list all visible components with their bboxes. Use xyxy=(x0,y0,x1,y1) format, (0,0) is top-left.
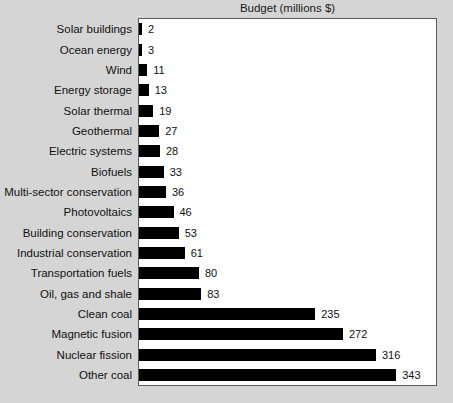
bar-row: 53 xyxy=(139,227,436,239)
bar-chart-figure: Budget (millions $) 23111319272833364653… xyxy=(0,0,453,403)
bar-row: 343 xyxy=(139,369,436,381)
bar xyxy=(139,227,179,239)
bar-value-label: 46 xyxy=(180,206,192,218)
bar-row: 33 xyxy=(139,166,436,178)
bar-value-label: 19 xyxy=(159,105,171,117)
bar-row: 2 xyxy=(139,23,436,35)
bar-value-label: 316 xyxy=(382,349,400,361)
chart-title: Budget (millions $) xyxy=(138,1,437,15)
category-label: Ocean energy xyxy=(60,44,132,56)
category-label: Industrial conservation xyxy=(17,247,132,259)
bar-row: 316 xyxy=(139,349,436,361)
bar-value-label: 11 xyxy=(153,64,164,76)
bar xyxy=(139,288,201,300)
category-labels-axis: Solar buildingsOcean energyWindEnergy st… xyxy=(0,18,136,386)
category-label: Biofuels xyxy=(91,166,132,178)
bar xyxy=(139,166,164,178)
bar-value-label: 36 xyxy=(172,186,184,198)
bar xyxy=(139,125,159,137)
bar xyxy=(139,84,149,96)
bar-row: 28 xyxy=(139,145,436,157)
bar-value-label: 33 xyxy=(170,166,182,178)
bar-value-label: 83 xyxy=(207,288,219,300)
bar xyxy=(139,64,147,76)
bar-row: 61 xyxy=(139,247,436,259)
bars-layer: 23111319272833364653618083235272316343 xyxy=(139,19,436,385)
category-label: Transportation fuels xyxy=(31,267,132,279)
bar-value-label: 27 xyxy=(165,125,177,137)
bar-row: 46 xyxy=(139,206,436,218)
bar xyxy=(139,145,160,157)
bar-value-label: 13 xyxy=(155,84,167,96)
bar-value-label: 80 xyxy=(205,267,217,279)
bar-value-label: 61 xyxy=(191,247,203,259)
bar-row: 11 xyxy=(139,64,436,76)
bar xyxy=(139,308,315,320)
bar-value-label: 2 xyxy=(148,23,154,35)
bar-row: 3 xyxy=(139,44,436,56)
bar-row: 272 xyxy=(139,328,436,340)
category-label: Building conservation xyxy=(23,227,132,239)
bar-value-label: 272 xyxy=(349,328,367,340)
bar-value-label: 343 xyxy=(402,369,420,381)
bar-row: 19 xyxy=(139,105,436,117)
category-label: Solar buildings xyxy=(57,23,132,35)
category-label: Energy storage xyxy=(54,84,132,96)
bar xyxy=(139,23,142,35)
bar-row: 235 xyxy=(139,308,436,320)
category-label: Photovoltaics xyxy=(64,206,132,218)
bar xyxy=(139,267,199,279)
bar-row: 27 xyxy=(139,125,436,137)
bar xyxy=(139,44,142,56)
bar xyxy=(139,369,396,381)
plot-area: 23111319272833364653618083235272316343 xyxy=(138,18,437,386)
category-label: Magnetic fusion xyxy=(51,328,132,340)
category-label: Solar thermal xyxy=(64,105,132,117)
category-label: Multi-sector conservation xyxy=(4,186,132,198)
category-label: Clean coal xyxy=(78,308,132,320)
category-label: Geothermal xyxy=(72,125,132,137)
bar-value-label: 53 xyxy=(185,227,197,239)
category-label: Electric systems xyxy=(49,145,132,157)
category-label: Oil, gas and shale xyxy=(40,288,132,300)
bar-value-label: 28 xyxy=(166,145,178,157)
bar-value-label: 235 xyxy=(321,308,339,320)
bar-value-label: 3 xyxy=(148,44,154,56)
bar-row: 80 xyxy=(139,267,436,279)
bar xyxy=(139,206,174,218)
category-label: Nuclear fission xyxy=(57,349,132,361)
category-label: Wind xyxy=(106,64,132,76)
bar-row: 13 xyxy=(139,84,436,96)
bar xyxy=(139,328,343,340)
bar xyxy=(139,349,376,361)
bar xyxy=(139,186,166,198)
bar xyxy=(139,105,153,117)
bar xyxy=(139,247,185,259)
bar-row: 36 xyxy=(139,186,436,198)
category-label: Other coal xyxy=(79,369,132,381)
bar-row: 83 xyxy=(139,288,436,300)
